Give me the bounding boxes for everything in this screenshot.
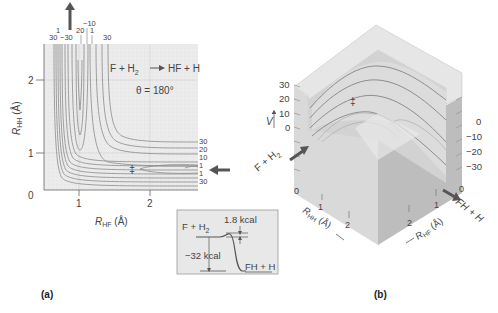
svg-text:−30: −30 [466,161,482,172]
svg-text:20: 20 [279,93,290,104]
figure-canvas: ‡ F + H2 HF + H θ = 180° 2 1 0 RHH (Å) 1… [0,0,498,313]
svg-text:30: 30 [199,177,207,186]
svg-text:1: 1 [434,200,439,210]
y-axis-label: RHH (Å) [10,102,23,135]
energy-profile-inset: F + H2 1.8 kcal −32 kcal FH + H [177,210,278,274]
right-contour-labels: 30 20 10 1 1 30 [199,137,207,186]
svg-text:0: 0 [459,184,464,194]
svg-text:2: 2 [407,218,412,228]
barrier-label: 1.8 kcal [224,214,257,225]
x-tick-2: 2 [147,198,153,209]
v-axis-ticks-right: 0 −10 −20 −30 [466,116,482,172]
exothermicity-label: −32 kcal [185,250,221,261]
svg-text:−20: −20 [466,146,482,157]
svg-text:10: 10 [279,108,290,119]
svg-text:1: 1 [90,26,94,35]
top-contour-labels: 30 1 −30 20 −10 1 30 [49,19,111,42]
svg-text:0: 0 [285,122,290,133]
panel-a-contour-plot: ‡ F + H2 HF + H θ = 180° 2 1 0 RHH (Å) 1… [10,2,278,300]
angle-label: θ = 180° [136,85,174,96]
saddle-point-marker-3d: ‡ [350,96,356,107]
svg-text:0: 0 [294,186,299,196]
panel-b-3d-surface: ‡ 30 20 10 0 V 0 −10 −20 −30 [252,25,486,300]
svg-text:1: 1 [318,202,323,212]
product-label: FH + H [454,196,487,225]
panel-a-label: (a) [41,289,53,300]
saddle-point-marker: ‡ [129,163,135,175]
svg-text:2: 2 [345,220,350,230]
panel-b-label: (b) [374,289,387,300]
v-axis-label: V [266,116,274,127]
products-label: FH + H [245,261,275,272]
y-tick-1: 1 [28,148,34,159]
svg-text:30: 30 [279,79,290,90]
svg-text:−10: −10 [466,131,482,142]
y-tick-0: 0 [28,190,34,201]
y-tick-2: 2 [28,75,34,86]
svg-text:−30: −30 [60,33,73,42]
svg-text:30: 30 [103,33,111,42]
reaction-products: HF + H [168,63,200,74]
x-axis-label: RHF (Å) [95,215,128,228]
v-axis-ticks-left: 30 20 10 0 [279,79,290,133]
x-tick-1: 1 [76,198,82,209]
svg-text:0: 0 [476,116,481,127]
reactant-label: F + H2 [252,147,282,175]
